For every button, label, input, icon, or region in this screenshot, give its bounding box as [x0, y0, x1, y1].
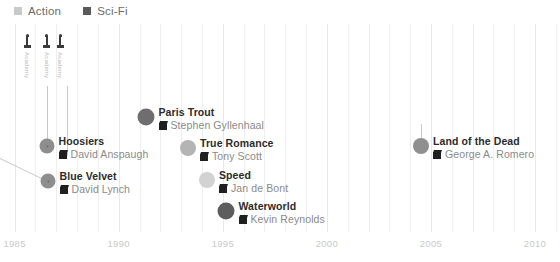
clapperboard-icon	[219, 184, 227, 193]
award-annotation-label: Academy	[57, 52, 63, 78]
statue-base	[24, 45, 31, 48]
award-statue-icon	[56, 34, 65, 49]
statue-body	[26, 36, 28, 45]
gridline	[369, 24, 370, 232]
statue-body	[46, 36, 48, 45]
data-point-label: WaterworldKevin Reynolds	[239, 200, 325, 226]
gridline	[535, 24, 536, 232]
director-name: Tony Scott	[212, 150, 262, 163]
axis-tick-label: 1990	[108, 238, 130, 249]
gridline	[327, 24, 328, 232]
data-point-label: Land of the DeadGeorge A. Romero	[433, 135, 534, 161]
data-point[interactable]	[199, 172, 215, 188]
gridline	[473, 24, 474, 232]
gridline	[77, 24, 78, 232]
director-row: George A. Romero	[433, 148, 534, 161]
award-annotation-label: Academy	[44, 52, 50, 78]
gridline	[556, 24, 557, 232]
movie-title: True Romance	[200, 137, 274, 149]
data-point-label: SpeedJan de Bont	[219, 169, 288, 195]
movie-title: Hoosiers	[59, 135, 149, 147]
data-point-label: HoosiersDavid Anspaugh	[59, 135, 149, 161]
data-point[interactable]	[413, 138, 429, 154]
gridline	[431, 24, 432, 232]
data-point-label: Paris TroutStephen Gyllenhaal	[159, 106, 264, 132]
gridline	[514, 24, 515, 232]
data-point[interactable]	[41, 174, 56, 189]
statue-base	[43, 45, 50, 48]
plot-area: 198519901995200020052010AcademyAcademyAc…	[0, 0, 560, 262]
award-statue-icon	[42, 34, 51, 49]
director-name: Jan de Bont	[231, 182, 288, 195]
gridline	[35, 24, 36, 232]
axis-tick-label: 1985	[3, 238, 25, 249]
director-row: Kevin Reynolds	[239, 213, 325, 226]
gridline	[15, 24, 16, 232]
movie-title: Paris Trout	[159, 106, 264, 118]
director-row: Tony Scott	[200, 150, 274, 163]
data-point[interactable]	[138, 109, 155, 126]
data-point-core	[47, 180, 49, 182]
axis-tick-label: 2010	[524, 238, 546, 249]
movie-title: Blue Velvet	[60, 170, 131, 182]
clapperboard-icon	[200, 152, 208, 161]
axis-tick-label: 2005	[420, 238, 442, 249]
data-point-core	[46, 145, 48, 147]
data-point[interactable]	[40, 139, 55, 154]
data-point[interactable]	[180, 140, 196, 156]
director-name: David Anspaugh	[71, 148, 149, 161]
axis-tick-label: 2000	[316, 238, 338, 249]
director-name: Kevin Reynolds	[251, 213, 325, 226]
director-name: David Lynch	[72, 183, 131, 196]
statue-body	[59, 36, 61, 45]
data-point[interactable]	[218, 203, 235, 220]
movie-title: Land of the Dead	[433, 135, 534, 147]
data-point-label: True RomanceTony Scott	[200, 137, 274, 163]
movie-title: Speed	[219, 169, 288, 181]
timeline-scatter-chart: Action Sci-Fi 198519901995200020052010Ac…	[0, 0, 560, 262]
movie-title: Waterworld	[239, 200, 325, 212]
gridline	[119, 24, 120, 232]
clapperboard-icon	[59, 150, 67, 159]
director-row: David Anspaugh	[59, 148, 149, 161]
gridline	[410, 24, 411, 232]
clapperboard-icon	[60, 185, 68, 194]
axis-tick-label: 1995	[212, 238, 234, 249]
gridline	[348, 24, 349, 232]
clapperboard-icon	[239, 215, 247, 224]
clapperboard-icon	[159, 121, 167, 130]
director-row: Jan de Bont	[219, 182, 288, 195]
statue-base	[57, 45, 64, 48]
director-row: Stephen Gyllenhaal	[159, 119, 264, 132]
award-annotation-label: Academy	[24, 52, 30, 78]
clapperboard-icon	[433, 150, 441, 159]
gridline	[389, 24, 390, 232]
gridline	[98, 24, 99, 232]
director-name: George A. Romero	[445, 148, 534, 161]
gridline	[140, 24, 141, 232]
director-name: Stephen Gyllenhaal	[171, 119, 264, 132]
gridline	[493, 24, 494, 232]
connector-line-hoosiers	[47, 86, 48, 146]
gridline	[452, 24, 453, 232]
data-point-label: Blue VelvetDavid Lynch	[60, 170, 131, 196]
director-row: David Lynch	[60, 183, 131, 196]
award-statue-icon	[23, 34, 32, 49]
